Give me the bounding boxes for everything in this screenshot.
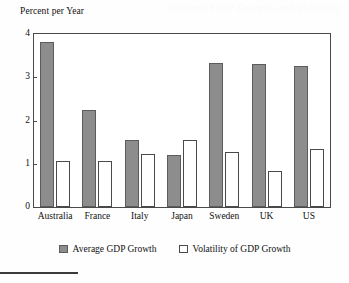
bar (268, 171, 282, 207)
x-tick-label: Italy (131, 211, 148, 221)
x-tick-label: UK (260, 211, 274, 221)
bar (294, 66, 308, 207)
legend-label: Average GDP Growth (73, 244, 157, 254)
chart-legend: Average GDP GrowthVolatility of GDP Grow… (0, 240, 349, 258)
bar (209, 63, 223, 207)
bar (98, 161, 112, 207)
y-tick-label: 1 (4, 159, 30, 169)
x-tick-label: US (303, 211, 315, 221)
bottom-divider (0, 272, 78, 274)
bar (183, 140, 197, 207)
x-tick-label: Sweden (209, 211, 239, 221)
y-tick-mark (33, 164, 37, 165)
bar (141, 154, 155, 207)
y-tick-label: 4 (4, 29, 30, 39)
bar (225, 152, 239, 207)
bar-group (34, 34, 76, 207)
bar-group (119, 34, 161, 207)
bar-group (245, 34, 287, 207)
x-axis: AustraliaFranceItalyJapanSwedenUKUS (34, 211, 330, 227)
bar (56, 161, 70, 207)
watermark-text: Nominal GDP Growth and Volatility (166, 2, 341, 16)
bar-group (203, 34, 245, 207)
bar (252, 64, 266, 207)
y-tick-label: 2 (4, 116, 30, 126)
bar (82, 110, 96, 207)
bar-group (288, 34, 330, 207)
bar (40, 42, 54, 207)
x-tick-label: France (84, 211, 110, 221)
x-tick-label: Australia (38, 211, 73, 221)
legend-swatch-icon (59, 245, 68, 253)
x-tick-label: Japan (171, 211, 193, 221)
y-tick-label: 3 (4, 73, 30, 83)
legend-item[interactable]: Average GDP Growth (59, 244, 157, 254)
y-tick-mark (33, 77, 37, 78)
bar-group (76, 34, 118, 207)
legend-swatch-icon (179, 245, 188, 253)
legend-label: Volatility of GDP Growth (193, 244, 291, 254)
bar (125, 140, 139, 207)
y-tick-label: 0 (4, 202, 30, 212)
legend-item[interactable]: Volatility of GDP Growth (179, 244, 291, 254)
chart-figure: Nominal GDP Growth and Volatility Percen… (0, 0, 349, 283)
bar-group (161, 34, 203, 207)
bar (167, 155, 181, 207)
y-tick-mark (33, 121, 37, 122)
plot-area (34, 34, 330, 207)
bar (310, 149, 324, 207)
